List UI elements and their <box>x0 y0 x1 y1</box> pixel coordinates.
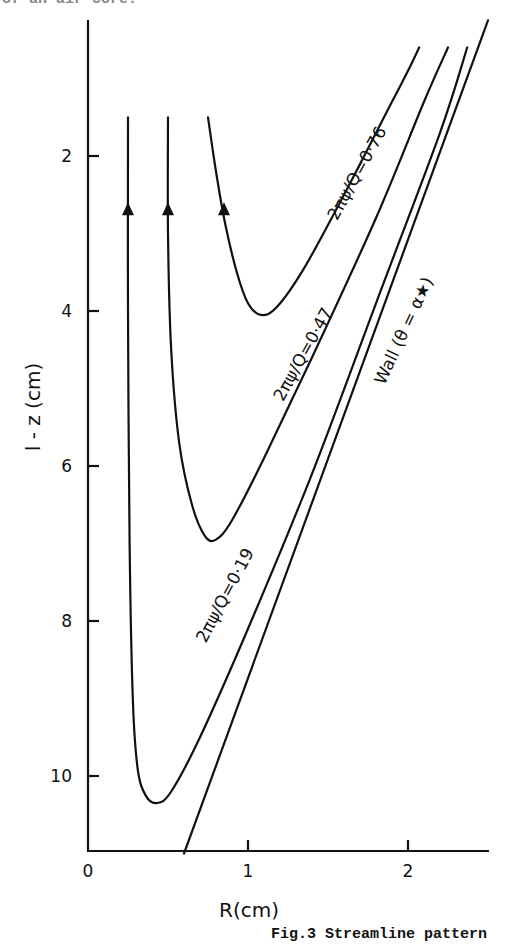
streamline-047-label: 2πψ/Q=0·47 <box>269 304 337 404</box>
axis-lines <box>88 20 489 851</box>
x-axis-title: R(cm) <box>219 898 279 922</box>
wall-line <box>184 20 488 853</box>
y-axis-title: l - z (cm) <box>21 363 45 451</box>
x-tick-label: 1 <box>243 861 254 881</box>
axes: 246810012R(cm)l - z (cm) <box>21 20 489 922</box>
x-tick-label: 2 <box>403 861 414 881</box>
flow-arrow-icon <box>218 202 230 215</box>
flow-arrow-icon <box>162 202 174 215</box>
flow-arrow-icon <box>122 202 134 215</box>
y-tick-label: 6 <box>61 456 72 476</box>
y-tick-label: 2 <box>61 146 72 166</box>
streamline-047 <box>168 48 448 542</box>
figure-caption: Fig.3 Streamline pattern <box>271 926 487 943</box>
streamline-chart: 246810012R(cm)l - z (cm) 2πψ/Q=0·762πψ/Q… <box>0 0 529 949</box>
y-tick-label: 4 <box>61 301 72 321</box>
y-tick-label: 10 <box>50 766 72 786</box>
streamline-019 <box>128 48 467 804</box>
streamlines <box>122 20 488 853</box>
curve-labels: 2πψ/Q=0·762πψ/Q=0·472πψ/Q=0·19Wall (θ = … <box>192 123 438 646</box>
y-tick-label: 8 <box>61 611 72 631</box>
x-tick-label: 0 <box>83 861 94 881</box>
